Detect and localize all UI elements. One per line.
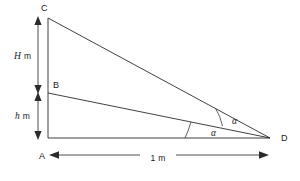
dimension-label-H: Hm bbox=[13, 51, 31, 61]
point-label-A: A bbox=[39, 151, 45, 161]
point-label-C: C bbox=[41, 3, 48, 13]
geometry-figure: C B A D Hm hm 1m α α bbox=[0, 0, 300, 181]
dimension-symbol-H: H bbox=[13, 51, 22, 61]
dimension-height-h bbox=[34, 92, 41, 140]
arrowhead-h-down bbox=[34, 131, 41, 140]
point-labels: C B A D bbox=[39, 3, 288, 161]
dimension-label-h: hm bbox=[15, 111, 30, 121]
dimension-unit-base: m bbox=[158, 153, 165, 163]
dimension-symbol-base: 1 bbox=[151, 153, 156, 163]
dimension-labels: Hm hm 1m bbox=[13, 51, 165, 163]
point-label-D: D bbox=[281, 133, 288, 143]
point-label-B: B bbox=[53, 80, 59, 90]
arrowhead-H-up bbox=[34, 16, 41, 25]
arrowhead-base-left bbox=[49, 151, 59, 159]
dimension-unit-H: m bbox=[24, 51, 31, 61]
dimension-symbol-h: h bbox=[15, 111, 20, 121]
dimension-unit-h: m bbox=[23, 111, 30, 121]
angle-label-lower: α bbox=[211, 128, 217, 138]
dimension-height-H bbox=[34, 16, 41, 94]
angle-marks bbox=[185, 108, 223, 138]
angle-label-upper: α bbox=[232, 116, 238, 126]
arrowhead-h-up bbox=[34, 92, 41, 101]
arrowhead-base-right bbox=[259, 151, 269, 159]
diagram-canvas: C B A D Hm hm 1m α α bbox=[0, 0, 300, 181]
angle-arc-lower bbox=[185, 122, 191, 138]
dimension-label-base: 1m bbox=[151, 153, 166, 163]
